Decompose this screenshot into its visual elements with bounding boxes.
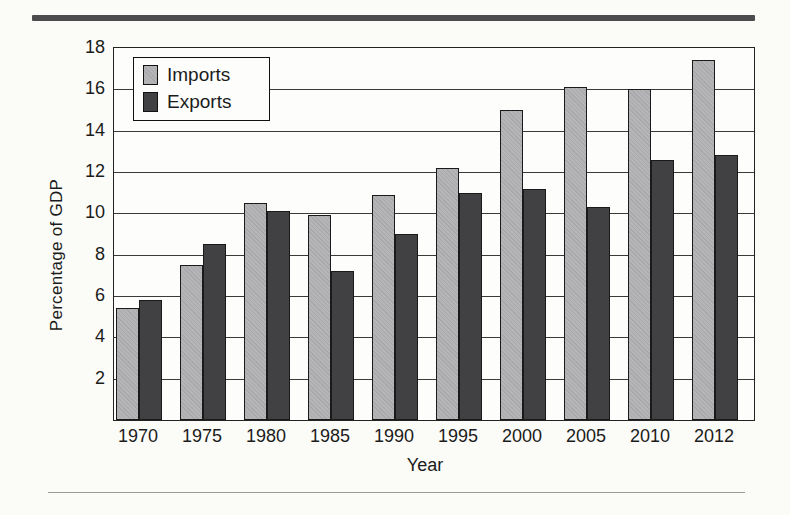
- x-tick-label: 1975: [182, 426, 222, 447]
- imports-bar-1980: [244, 203, 267, 420]
- exports-bar-2000: [523, 189, 546, 420]
- y-tick-label: 8: [65, 245, 105, 263]
- exports-bar-1985: [331, 271, 354, 420]
- imports-bar-1990: [372, 195, 395, 420]
- gridline: [114, 131, 754, 132]
- imports-bar-2012: [692, 60, 715, 420]
- y-axis-title: Percentage of GDP: [47, 179, 67, 332]
- y-tick-label: 2: [65, 369, 105, 387]
- x-tick-label: 2010: [630, 426, 670, 447]
- exports-bar-1975: [203, 244, 226, 420]
- exports-swatch-icon: [143, 92, 158, 112]
- imports-bar-2010: [628, 89, 651, 420]
- x-tick-label: 1970: [118, 426, 158, 447]
- legend-item-exports: Exports: [143, 92, 259, 112]
- y-tick-label: 10: [65, 203, 105, 221]
- y-tick-label: 4: [65, 327, 105, 345]
- imports-bar-1985: [308, 215, 331, 420]
- bottom-rule: [48, 492, 745, 493]
- x-axis-title: Year: [407, 455, 443, 476]
- exports-bar-2012: [715, 155, 738, 420]
- y-tick-label: 16: [65, 79, 105, 97]
- x-tick-label: 1990: [374, 426, 414, 447]
- exports-bar-1970: [139, 300, 162, 420]
- exports-bar-2005: [587, 207, 610, 420]
- y-tick-label: 12: [65, 162, 105, 180]
- imports-swatch-icon: [143, 65, 158, 85]
- y-tick-label: 18: [65, 38, 105, 56]
- x-tick-label: 1985: [310, 426, 350, 447]
- y-tick-label: 6: [65, 286, 105, 304]
- figure: Percentage of GDP Imports Exports Year 2…: [0, 0, 790, 515]
- x-tick-label: 2005: [566, 426, 606, 447]
- x-tick-label: 1995: [438, 426, 478, 447]
- x-tick-label: 2000: [502, 426, 542, 447]
- imports-bar-2005: [564, 87, 587, 420]
- imports-bar-1975: [180, 265, 203, 420]
- exports-bar-1990: [395, 234, 418, 420]
- exports-bar-1980: [267, 211, 290, 420]
- legend-item-imports: Imports: [143, 65, 259, 85]
- legend-label-exports: Exports: [167, 92, 231, 112]
- legend-label-imports: Imports: [167, 65, 230, 85]
- imports-bar-2000: [500, 110, 523, 420]
- imports-bar-1995: [436, 168, 459, 420]
- imports-bar-1970: [116, 308, 139, 420]
- x-tick-label: 1980: [246, 426, 286, 447]
- exports-bar-1995: [459, 193, 482, 420]
- top-rule: [32, 15, 755, 21]
- y-tick-label: 14: [65, 121, 105, 139]
- exports-bar-2010: [651, 160, 674, 420]
- x-tick-label: 2012: [694, 426, 734, 447]
- legend: Imports Exports: [133, 57, 270, 121]
